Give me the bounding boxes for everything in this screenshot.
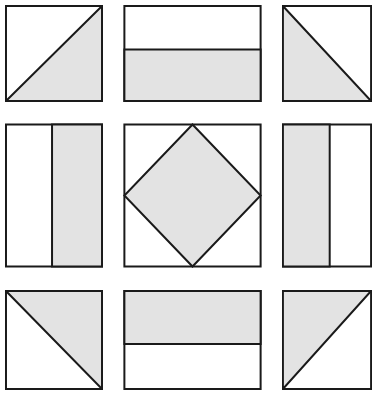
half-square-triangle-upper-left-icon [282,290,372,390]
matrix-cell-7 [5,290,103,390]
half-square-triangle-upper-right-icon [5,290,103,390]
matrix-cell-6 [282,123,372,268]
matrix-cell-9 [282,290,372,390]
matrix-cell-5 [123,123,262,268]
shaded-band [124,291,260,344]
vertical-split-right-shaded-icon [5,123,103,268]
shaded-band [283,124,330,266]
horizontal-split-top-shaded-icon [123,290,262,390]
horizontal-split-bottom-shaded-icon [123,5,262,102]
inscribed-diamond-icon [123,123,262,268]
half-square-triangle-lower-right-icon [5,5,103,102]
matrix-cell-1 [5,5,103,102]
matrix-cell-2 [123,5,262,102]
half-square-triangle-lower-left-icon [282,5,372,102]
matrix-figure [0,0,380,398]
shaded-band [124,50,260,101]
matrix-cell-3 [282,5,372,102]
matrix-cell-4 [5,123,103,268]
shaded-band [52,124,102,266]
matrix-cell-8 [123,290,262,390]
vertical-split-left-shaded-icon [282,123,372,268]
